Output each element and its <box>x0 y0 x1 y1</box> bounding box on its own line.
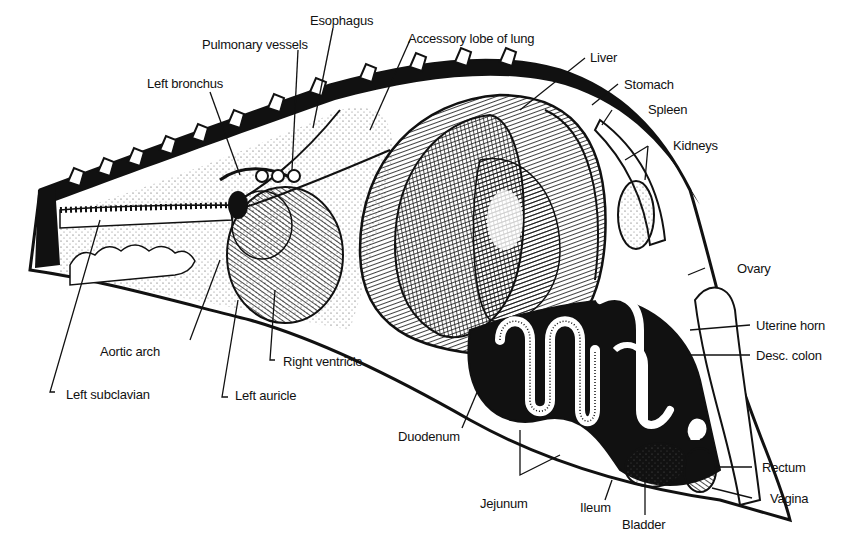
label-aortic-arch: Aortic arch <box>100 345 160 358</box>
label-bladder: Bladder <box>622 518 665 531</box>
label-desc-colon: Desc. colon <box>756 349 822 362</box>
label-uterine-horn: Uterine horn <box>756 319 825 332</box>
label-ileum: Ileum <box>580 501 611 514</box>
label-liver: Liver <box>590 51 617 64</box>
label-kidneys: Kidneys <box>673 139 718 152</box>
label-rectum: Rectum <box>762 461 806 474</box>
label-duodenum: Duodenum <box>398 430 460 443</box>
label-left-subclavian: Left subclavian <box>66 388 150 401</box>
label-jejunum: Jejunum <box>480 497 528 510</box>
label-left-auricle: Left auricle <box>235 389 296 402</box>
label-esophagus: Esophagus <box>310 14 373 27</box>
anatomy-diagram: Esophagus Pulmonary vessels Accessory lo… <box>0 0 856 544</box>
label-vagina: Vagina <box>770 492 808 505</box>
label-pulmonary-vessels: Pulmonary vessels <box>202 38 308 51</box>
label-stomach: Stomach <box>624 78 674 91</box>
label-accessory-lobe: Accessory lobe of lung <box>408 32 534 45</box>
label-left-bronchus: Left bronchus <box>147 77 223 90</box>
anatomy-illustration <box>0 0 856 544</box>
label-spleen: Spleen <box>648 103 687 116</box>
kidney <box>618 181 654 249</box>
label-ovary: Ovary <box>737 262 771 275</box>
label-right-ventricle: Right ventricle <box>283 355 362 368</box>
